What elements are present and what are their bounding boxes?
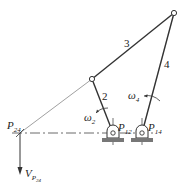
link-4-label: 4 bbox=[164, 59, 170, 70]
link-3-label: 3 bbox=[124, 38, 130, 49]
velocity-label: VP24 bbox=[25, 168, 41, 183]
link-2-label: 2 bbox=[102, 91, 108, 102]
four-bar-linkage-diagram bbox=[0, 0, 191, 186]
link-4 bbox=[142, 13, 174, 133]
p14-label: P14 bbox=[148, 122, 162, 136]
link-3 bbox=[92, 13, 174, 79]
omega-4-label: ω4 bbox=[128, 90, 139, 104]
construction-line bbox=[20, 79, 92, 133]
joint-c bbox=[171, 10, 176, 15]
joint-b bbox=[89, 76, 94, 81]
p12-label: P12 bbox=[118, 122, 132, 136]
omega-2-label: ω2 bbox=[84, 112, 95, 126]
p24-label: P24 bbox=[7, 120, 21, 134]
